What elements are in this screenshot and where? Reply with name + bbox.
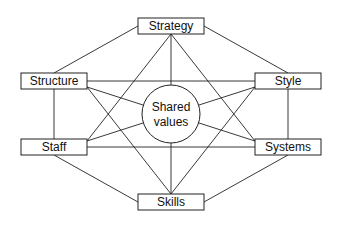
node-systems: Systems — [255, 139, 321, 155]
edge-staff-skills — [54, 155, 138, 202]
node-skills: Skills — [138, 194, 204, 210]
edge-systems-shared_values — [199, 123, 255, 141]
skills-label: Skills — [157, 195, 185, 209]
node-staff: Staff — [21, 139, 87, 155]
node-style: Style — [255, 73, 321, 89]
shared-values-label-line1: Shared — [152, 100, 191, 114]
edge-style-shared_values — [199, 87, 255, 105]
staff-label: Staff — [42, 140, 67, 154]
strategy-label: Strategy — [149, 19, 194, 33]
systems-label: Systems — [265, 140, 311, 154]
edge-strategy-structure — [54, 26, 138, 73]
node-structure: Structure — [21, 73, 87, 89]
edge-structure-shared_values — [87, 87, 143, 105]
node-strategy: Strategy — [138, 18, 204, 34]
edge-staff-shared_values — [87, 123, 143, 141]
shared-values-label-line2: values — [154, 115, 189, 129]
edge-strategy-style — [204, 26, 288, 73]
style-label: Style — [275, 74, 302, 88]
structure-label: Structure — [30, 74, 79, 88]
shared-values-node: Shared values — [142, 85, 200, 143]
edge-systems-skills — [204, 155, 288, 202]
seven-s-diagram: Shared values Strategy Structure Style S… — [0, 0, 337, 227]
shared-values-circle — [142, 85, 200, 143]
